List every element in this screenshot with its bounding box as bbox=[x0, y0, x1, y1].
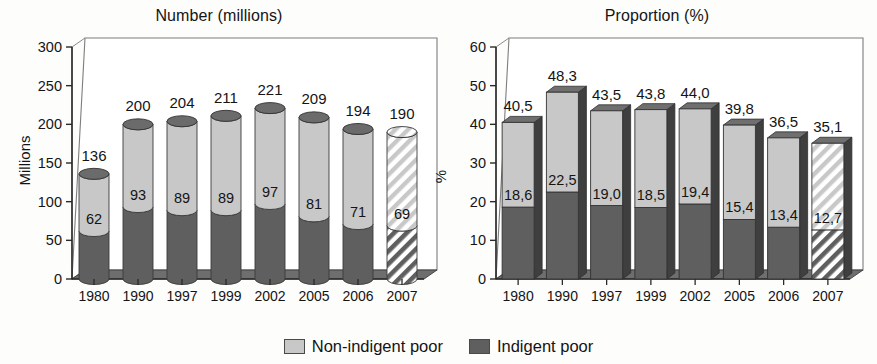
bar-side-face bbox=[844, 137, 852, 279]
x-tick-label: 2006 bbox=[342, 288, 373, 304]
bar-segment-indigent bbox=[79, 231, 109, 284]
bar-indigent-label: 18,6 bbox=[504, 187, 532, 203]
bar-top-cap bbox=[255, 103, 285, 114]
y-tick-label: 250 bbox=[38, 78, 62, 94]
bar-total-label: 35,1 bbox=[813, 118, 842, 135]
x-tick-label: 1997 bbox=[591, 288, 622, 304]
bar-segment-indigent bbox=[255, 204, 285, 285]
bar-total-label: 43,5 bbox=[592, 86, 621, 103]
bar-segment-indigent bbox=[723, 219, 755, 279]
x-tick-label: 2007 bbox=[386, 288, 417, 304]
bar-indigent-label: 71 bbox=[350, 204, 366, 220]
bar-total-label: 40,5 bbox=[504, 97, 533, 114]
bar-total-label: 204 bbox=[169, 94, 194, 111]
x-tick-label: 2007 bbox=[812, 288, 843, 304]
bar-total-label: 43,8 bbox=[636, 85, 665, 102]
bar-side-face bbox=[534, 116, 542, 279]
bar-total-label: 36,5 bbox=[769, 113, 798, 130]
x-tick-label: 1999 bbox=[210, 288, 241, 304]
bar-indigent-label: 18,5 bbox=[637, 187, 665, 203]
y-tick-label: 50 bbox=[46, 232, 62, 248]
y-tick-label: 60 bbox=[470, 39, 486, 55]
y-tick-label: 0 bbox=[478, 271, 486, 287]
bar-segment-non-indigent bbox=[79, 174, 109, 237]
bar-top-cap bbox=[123, 119, 153, 130]
plot-wall-edge-top bbox=[496, 38, 509, 47]
bar-segment-indigent bbox=[546, 192, 578, 279]
bar-top-cap bbox=[387, 127, 417, 138]
bar-total-label: 221 bbox=[257, 81, 282, 98]
bar-indigent-label: 97 bbox=[262, 184, 278, 200]
bar-segment-indigent bbox=[387, 226, 417, 285]
bar-total-label: 190 bbox=[389, 105, 414, 122]
bar-total-label: 211 bbox=[214, 89, 238, 106]
y-tick-label: 100 bbox=[38, 194, 62, 210]
legend-item-non-indigent-poor: Non-indigent poor bbox=[284, 337, 443, 356]
chart-panel-number: Number (millions) Millions 0501001502002… bbox=[0, 0, 438, 318]
x-tick-label: 1990 bbox=[547, 288, 578, 304]
bar-top-cap bbox=[167, 116, 197, 127]
bar-indigent-label: 81 bbox=[306, 196, 322, 212]
bar-segment-indigent bbox=[768, 227, 800, 279]
y-tick-label: 30 bbox=[470, 155, 486, 171]
bar-group bbox=[768, 132, 808, 279]
bar-total-label: 48,3 bbox=[548, 67, 577, 84]
bar-segment-indigent bbox=[211, 210, 241, 284]
bar-segment-indigent bbox=[167, 210, 197, 284]
bar-total-label: 200 bbox=[125, 97, 150, 114]
bar-indigent-label: 93 bbox=[130, 187, 146, 203]
y-tick-label: 300 bbox=[38, 39, 62, 55]
y-tick-label: 20 bbox=[470, 194, 486, 210]
bar-indigent-label: 19,4 bbox=[681, 184, 709, 200]
y-tick-label: 10 bbox=[470, 232, 486, 248]
bar-segment-indigent bbox=[591, 206, 623, 279]
legend-swatch-indigent-poor bbox=[469, 339, 490, 354]
bar-top-cap bbox=[79, 168, 109, 179]
bar-side-face bbox=[578, 86, 586, 279]
bar-side-face bbox=[667, 104, 675, 279]
x-tick-label: 2005 bbox=[298, 288, 329, 304]
x-tick-label: 1999 bbox=[635, 288, 666, 304]
bar-indigent-label: 89 bbox=[218, 190, 234, 206]
x-tick-label: 2002 bbox=[254, 288, 285, 304]
x-tick-label: 1997 bbox=[166, 288, 197, 304]
chart-legend: Non-indigent poor Indigent poor bbox=[0, 337, 877, 356]
bar-indigent-label: 15,4 bbox=[725, 199, 753, 215]
legend-label-indigent-poor: Indigent poor bbox=[497, 337, 593, 356]
bar-indigent-label: 62 bbox=[86, 211, 102, 227]
legend-swatch-non-indigent-poor bbox=[284, 339, 305, 354]
bar-total-label: 44,0 bbox=[681, 84, 710, 101]
plot-area-number: 0501001502002503001980136621990200931997… bbox=[0, 0, 438, 318]
bar-segment-indigent bbox=[123, 207, 153, 284]
figure-stacked-poverty-charts: Number (millions) Millions 0501001502002… bbox=[0, 0, 877, 364]
bar-indigent-label: 22,5 bbox=[548, 172, 576, 188]
x-tick-label: 2005 bbox=[724, 288, 755, 304]
bar-segment-indigent bbox=[502, 207, 534, 279]
bar-indigent-label: 19,0 bbox=[593, 186, 621, 202]
bar-segment-indigent bbox=[812, 230, 844, 279]
legend-item-indigent-poor: Indigent poor bbox=[469, 337, 593, 356]
y-tick-label: 50 bbox=[470, 78, 486, 94]
x-tick-label: 2002 bbox=[680, 288, 711, 304]
bar-side-face bbox=[623, 105, 631, 279]
bar-total-label: 136 bbox=[81, 147, 106, 164]
y-tick-label: 0 bbox=[54, 271, 62, 287]
bar-group bbox=[812, 137, 852, 279]
chart-panels: Number (millions) Millions 0501001502002… bbox=[0, 0, 877, 318]
bar-side-face bbox=[755, 119, 763, 279]
plot-wall-edge-top bbox=[72, 38, 85, 47]
bar-total-label: 39,8 bbox=[725, 100, 754, 117]
bar-total-label: 209 bbox=[301, 90, 326, 107]
x-tick-label: 2006 bbox=[768, 288, 799, 304]
bar-top-cap bbox=[299, 112, 329, 123]
y-tick-label: 40 bbox=[470, 116, 486, 132]
bar-indigent-label: 89 bbox=[174, 190, 190, 206]
plot-area-proportion: 0102030405060198040,518,6199048,322,5199… bbox=[438, 0, 876, 318]
bar-side-face bbox=[800, 132, 808, 279]
x-tick-label: 1980 bbox=[78, 288, 109, 304]
bar-side-face bbox=[711, 103, 719, 279]
bar-top-cap bbox=[343, 123, 373, 134]
chart-panel-proportion: Proportion (%) % 0102030405060198040,518… bbox=[438, 0, 876, 318]
y-tick-label: 200 bbox=[38, 116, 62, 132]
bar-top-cap bbox=[211, 110, 241, 121]
